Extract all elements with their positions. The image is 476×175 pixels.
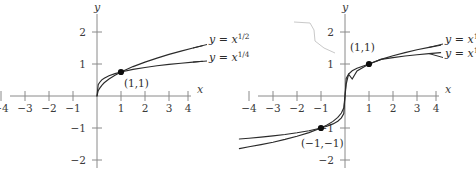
- data-point-marker: [366, 61, 372, 67]
- x-tick-label: −2: [41, 102, 56, 114]
- data-point-label: (1,1): [350, 41, 375, 53]
- y-axis-label: y: [341, 1, 349, 14]
- y-tick-label: −2: [71, 154, 86, 166]
- x-tick-label: 3: [166, 102, 173, 114]
- data-point-label: (−1,−1): [301, 137, 344, 149]
- x-tick-label: 3: [414, 102, 421, 114]
- x-tick-label: −1: [313, 102, 328, 114]
- leader-line-fifth-root: [429, 54, 443, 58]
- data-point-marker: [318, 125, 324, 131]
- curve-label-fifth-root: y = x1/: [444, 46, 476, 60]
- y-tick-label: 1: [79, 58, 86, 70]
- x-tick-label: −4: [0, 102, 9, 114]
- leader-line-fourth-root: [193, 61, 207, 62]
- x-tick-label: 1: [366, 102, 373, 114]
- curve-cube-root: [239, 45, 440, 148]
- figure-canvas: −4 −3 −2 −1 1 2 3 4 2 1 −1 −2 x y: [0, 0, 476, 175]
- data-point-label: (1,1): [124, 77, 149, 89]
- y-tick-label: 2: [327, 26, 334, 38]
- y-tick-label: −1: [71, 122, 86, 134]
- y-tick-label: −2: [319, 154, 334, 166]
- chart-panel-left: −4 −3 −2 −1 1 2 3 4 2 1 −1 −2 x y: [0, 0, 238, 175]
- chart-panel-right: −4 −3 −2 −1 1 2 3 4 2 1 −1 −2 x y: [238, 0, 476, 175]
- data-point-marker: [118, 69, 124, 75]
- x-tick-label: −1: [65, 102, 80, 114]
- x-axis-label: x: [197, 83, 204, 96]
- x-tick-label: 2: [142, 102, 149, 114]
- y-tick-label: 1: [327, 58, 334, 70]
- x-axis-label: x: [445, 83, 452, 96]
- leader-line-sqrt: [193, 45, 207, 49]
- x-tick-label: 4: [185, 102, 192, 114]
- x-tick-label: −4: [241, 102, 257, 114]
- x-tick-label: 2: [390, 102, 397, 114]
- x-tick-label: 4: [433, 102, 440, 114]
- x-tick-label: 1: [118, 102, 125, 114]
- x-tick-label: −3: [17, 102, 32, 114]
- y-tick-label: 2: [79, 26, 86, 38]
- curve-fourth-root: [97, 61, 202, 96]
- curve-label-cube-root: y = x1/: [444, 32, 476, 46]
- y-axis-label: y: [93, 1, 101, 14]
- x-tick-label: −2: [289, 102, 304, 114]
- curve-sqrt: [97, 46, 202, 96]
- x-tick-label: −3: [265, 102, 280, 114]
